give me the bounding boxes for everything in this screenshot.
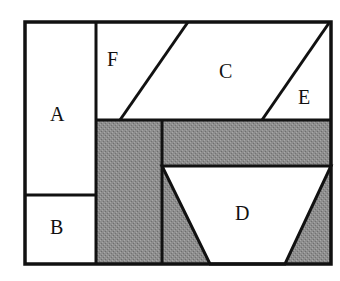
divider-f-c	[120, 22, 188, 120]
label-d: D	[235, 202, 249, 224]
shaded-middle-band	[162, 120, 331, 166]
label-b: B	[50, 216, 63, 238]
label-a: A	[50, 103, 65, 125]
region-diagram: A B C D E F	[0, 0, 340, 281]
divider-c-e	[262, 23, 329, 120]
label-e: E	[298, 86, 310, 108]
label-f: F	[107, 48, 118, 70]
shaded-left-column	[96, 120, 162, 264]
label-c: C	[219, 60, 232, 82]
